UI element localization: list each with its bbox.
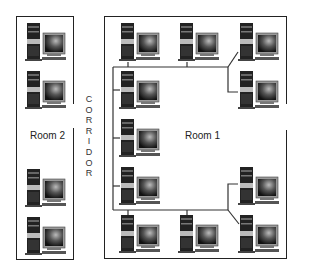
computer-workstation-icon [237,166,281,206]
computer-workstation-icon [237,214,281,254]
computer-workstation-icon [118,70,162,110]
computer-workstation-icon [24,216,68,256]
computer-workstation-icon [118,166,162,206]
computer-workstation-icon [24,22,68,62]
computer-workstation-icon [177,214,221,254]
computer-workstation-icon [24,70,68,110]
computer-workstation-icon [237,22,281,62]
computer-workstation-icon [237,70,281,110]
computer-workstation-icon [118,118,162,158]
computer-workstation-icon [24,168,68,208]
computer-workstation-icon [118,214,162,254]
computer-workstation-icon [177,22,221,62]
computer-workstation-icon [118,22,162,62]
